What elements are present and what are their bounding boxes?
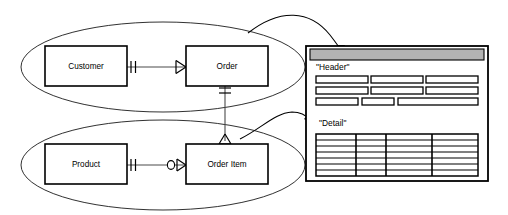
field-box[interactable] [426, 76, 478, 83]
detail-grid[interactable] [316, 134, 478, 176]
field-box[interactable] [398, 98, 478, 105]
entity-customer[interactable]: Customer [45, 46, 127, 86]
entity-order[interactable]: Order [186, 46, 268, 86]
field-box[interactable] [316, 76, 368, 83]
cardinality-zero-circle-icon [167, 161, 174, 170]
field-box[interactable] [371, 87, 423, 94]
field-box[interactable] [371, 76, 423, 83]
field-box[interactable] [316, 87, 368, 94]
header-section-label: "Header" [316, 62, 349, 72]
field-box[interactable] [362, 98, 394, 105]
entity-label: Order Item [207, 160, 246, 169]
document-panel: "Header" "Detail" [306, 46, 488, 181]
entity-label: Order [217, 62, 238, 71]
entity-label: Customer [68, 62, 104, 71]
relationship-order-orderitem [219, 84, 231, 144]
entity-product[interactable]: Product [45, 144, 127, 184]
field-box[interactable] [316, 98, 358, 105]
detail-section-label: "Detail" [319, 118, 346, 128]
panel-titlebar[interactable] [310, 49, 484, 60]
header-field-row [316, 87, 478, 94]
relationship-product-orderitem [127, 159, 186, 171]
entity-order-item[interactable]: Order Item [186, 144, 268, 184]
er-diagram-canvas: Customer Order Product Order Item [0, 0, 508, 215]
arrow-curve [240, 112, 310, 139]
field-box[interactable] [426, 87, 478, 94]
relationship-customer-order [127, 61, 186, 74]
header-field-row [316, 76, 478, 83]
entity-label: Product [72, 160, 101, 169]
mapping-arrow-detail [240, 112, 315, 139]
